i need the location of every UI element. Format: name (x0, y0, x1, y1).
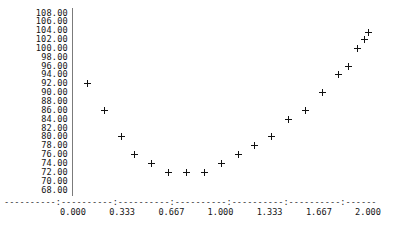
data-point-marker (148, 160, 155, 167)
data-point-marker (285, 116, 292, 123)
x-axis-tick-label: 0.333 (109, 207, 135, 217)
data-point-marker (335, 71, 342, 78)
x-axis-tick-label: 2.000 (355, 207, 381, 217)
x-axis-tick-label: 1.333 (257, 207, 283, 217)
data-point-marker (251, 142, 258, 149)
x-axis-tick-label: 0.667 (158, 207, 184, 217)
data-point-marker (183, 169, 190, 176)
data-point-marker (365, 29, 372, 36)
data-point-marker (345, 63, 352, 70)
data-point-marker (101, 107, 108, 114)
data-point-marker (361, 36, 368, 43)
data-point-marker (319, 89, 326, 96)
data-point-marker (218, 160, 225, 167)
scatter-plot: 108.00106.00104.00102.00100.0098.0096.00… (0, 0, 407, 227)
data-point-marker (201, 169, 208, 176)
data-point-marker (118, 133, 125, 140)
data-point-marker (131, 151, 138, 158)
x-axis-tick-label: 0.000 (60, 207, 86, 217)
x-axis-line: ----------:----------:----------:-------… (4, 198, 376, 207)
data-point-marker (302, 107, 309, 114)
data-point-marker (268, 133, 275, 140)
data-point-marker (84, 80, 91, 87)
data-point-marker (354, 45, 361, 52)
plot-area (0, 0, 407, 227)
x-axis-tick-label: 1.667 (306, 207, 332, 217)
data-point-marker (235, 151, 242, 158)
x-axis-tick-label: 1.000 (208, 207, 234, 217)
data-point-marker (165, 169, 172, 176)
